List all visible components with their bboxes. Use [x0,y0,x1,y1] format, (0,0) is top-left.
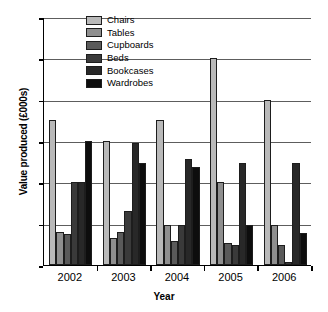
legend-label: Wardrobes [107,78,153,88]
bar-cupboards-2004[interactable] [171,241,178,265]
legend-item-cupboards[interactable]: Cupboards [86,39,153,51]
legend-item-chairs[interactable]: Chairs [86,14,153,26]
x-tick-label-2002: 2002 [40,271,100,283]
legend-swatch-wardrobes [86,79,102,88]
bar-wardrobes-2002[interactable] [85,141,92,265]
legend-swatch-bookcases [86,66,102,75]
bar-bookcases-2005[interactable] [239,163,246,266]
y-tick-mark [39,59,43,61]
legend-item-beds[interactable]: Beds [86,52,153,64]
chart-legend: ChairsTablesCupboardsBedsBookcasesWardro… [86,14,153,90]
bar-chairs-2002[interactable] [49,120,56,265]
bar-beds-2005[interactable] [232,245,239,265]
x-tick-label-2005: 2005 [201,271,261,283]
y-tick-mark [39,101,43,103]
y-tick-mark [39,183,43,185]
legend-label: Beds [107,53,129,63]
bar-chairs-2003[interactable] [103,141,110,265]
legend-label: Chairs [107,15,134,25]
bar-beds-2006[interactable] [285,262,292,265]
bar-bookcases-2003[interactable] [132,143,139,265]
bar-wardrobes-2003[interactable] [139,163,146,266]
bar-tables-2004[interactable] [164,225,171,266]
bar-bookcases-2004[interactable] [185,159,192,265]
legend-label: Cupboards [107,40,153,50]
bar-tables-2002[interactable] [56,232,63,265]
bar-chairs-2006[interactable] [264,100,271,265]
legend-label: Bookcases [107,66,153,76]
bar-cupboards-2003[interactable] [117,232,124,265]
bar-bookcases-2006[interactable] [292,163,299,266]
bar-chairs-2005[interactable] [210,58,217,265]
legend-item-wardrobes[interactable]: Wardrobes [86,77,153,89]
legend-item-tables[interactable]: Tables [86,27,153,39]
x-tick-mark [311,266,313,271]
y-tick-mark [39,18,43,20]
legend-swatch-tables [86,28,102,37]
bar-tables-2005[interactable] [217,182,224,265]
bar-beds-2003[interactable] [124,211,131,265]
bar-group-2005 [205,18,259,265]
x-tick-label-2004: 2004 [147,271,207,283]
y-tick-mark [39,266,43,268]
x-axis-title: Year [0,291,328,302]
bar-wardrobes-2005[interactable] [246,225,253,266]
bar-bookcases-2002[interactable] [78,182,85,265]
y-axis-title: Value produced (£000s) [18,57,29,227]
legend-swatch-chairs [86,16,102,25]
bar-beds-2004[interactable] [178,225,185,266]
bar-series-area [44,18,311,265]
plot-area [43,18,311,266]
bar-tables-2003[interactable] [110,238,117,265]
bar-group-2004 [151,18,205,265]
bar-wardrobes-2006[interactable] [300,233,307,265]
bar-cupboards-2005[interactable] [224,243,231,265]
legend-label: Tables [107,28,134,38]
bar-chairs-2004[interactable] [156,120,163,265]
legend-item-bookcases[interactable]: Bookcases [86,65,153,77]
bar-group-2006 [258,18,312,265]
bar-beds-2002[interactable] [71,182,78,265]
bar-wardrobes-2004[interactable] [192,167,199,265]
bar-tables-2006[interactable] [271,225,278,266]
chart-container: Value produced (£000s) 01002003004005006… [0,0,328,312]
legend-swatch-cupboards [86,41,102,50]
bar-cupboards-2006[interactable] [278,245,285,265]
y-tick-mark [39,225,43,227]
x-tick-label-2006: 2006 [254,271,314,283]
y-tick-mark [39,142,43,144]
legend-swatch-beds [86,54,102,63]
bar-cupboards-2002[interactable] [64,234,71,265]
x-tick-label-2003: 2003 [93,271,153,283]
